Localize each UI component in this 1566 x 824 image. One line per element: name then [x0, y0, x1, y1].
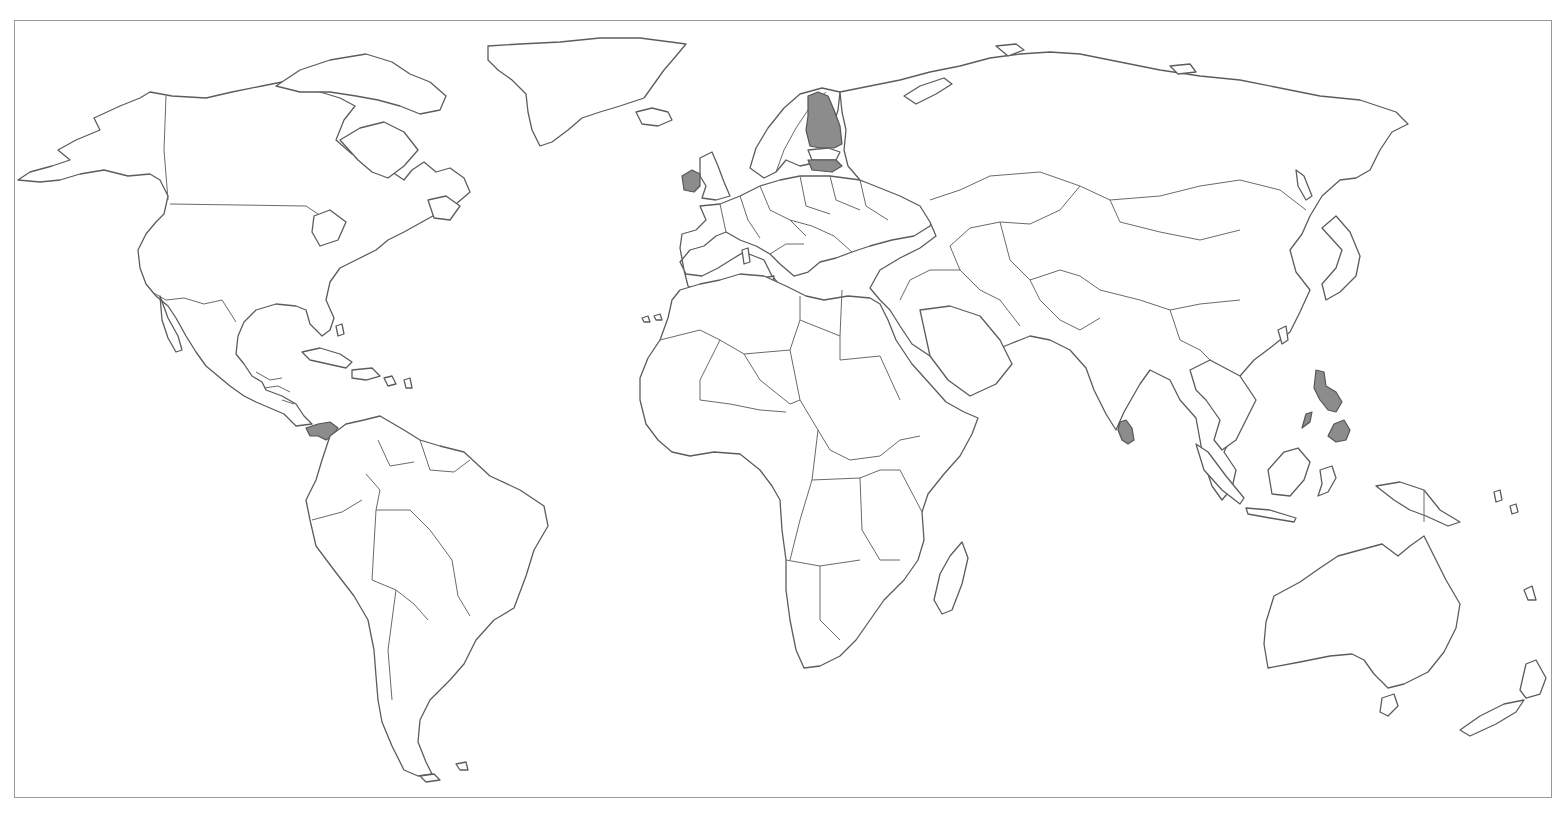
sardinia-corsica: [742, 248, 750, 264]
estonia: [808, 148, 840, 160]
bahamas: [336, 324, 344, 336]
world-map: [0, 0, 1566, 824]
